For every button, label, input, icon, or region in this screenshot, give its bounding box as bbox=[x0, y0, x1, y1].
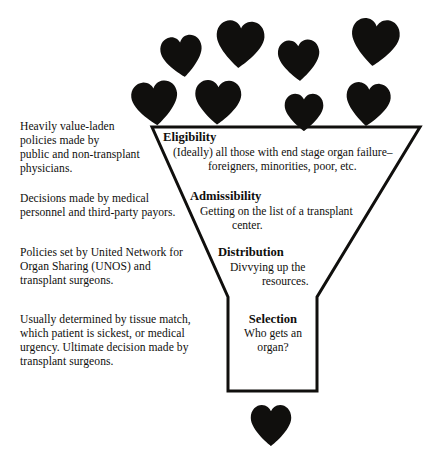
stage-eligibility-title: Eligibility bbox=[163, 130, 423, 145]
stage-selection-description-line2: organ? bbox=[257, 341, 288, 354]
stage-distribution-description-line2: resources. bbox=[230, 275, 398, 289]
stage-admissibility-description-line1: Getting on the list of a transplant bbox=[200, 205, 353, 218]
stage-distribution: Distribution Divvying up theresources. bbox=[213, 245, 398, 289]
stage-eligibility-description-line1: (Ideally) all those with end stage organ… bbox=[173, 146, 393, 159]
stage-selection-description: Who gets anorgan? bbox=[228, 327, 318, 355]
stage-selection: Selection Who gets anorgan? bbox=[228, 312, 318, 355]
annotation-distribution-note: Policies set by United Network for Organ… bbox=[20, 246, 210, 288]
stage-eligibility-description: (Ideally) all those with end stage organ… bbox=[163, 146, 423, 174]
annotation-selection-note: Usually determined by tissue match, whic… bbox=[20, 313, 220, 369]
stage-distribution-description-line1: Divvying up the bbox=[230, 261, 305, 274]
stage-eligibility-description-line2: foreigners, minorities, poor, etc. bbox=[173, 160, 423, 174]
stage-selection-title: Selection bbox=[228, 312, 318, 327]
stage-admissibility-title: Admissibility bbox=[186, 189, 421, 204]
stage-admissibility-description-line2: center. bbox=[200, 219, 421, 233]
diagram-canvas: Heavily value-laden policies made by pub… bbox=[0, 0, 443, 458]
stage-selection-description-line1: Who gets an bbox=[244, 327, 302, 340]
annotation-admissibility-note: Decisions made by medical personnel and … bbox=[20, 192, 210, 220]
stage-eligibility: Eligibility (Ideally) all those with end… bbox=[163, 130, 423, 174]
stage-admissibility-description: Getting on the list of a transplantcente… bbox=[186, 205, 421, 233]
stage-distribution-description: Divvying up theresources. bbox=[213, 261, 398, 289]
stage-admissibility: Admissibility Getting on the list of a t… bbox=[186, 189, 421, 233]
annotation-eligibility-note: Heavily value-laden policies made by pub… bbox=[20, 120, 170, 176]
stage-distribution-title: Distribution bbox=[213, 245, 398, 260]
